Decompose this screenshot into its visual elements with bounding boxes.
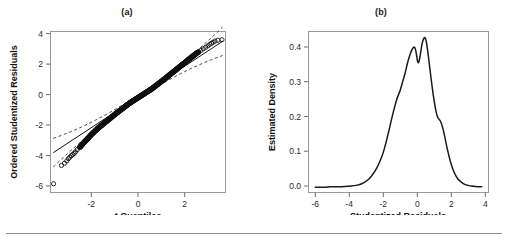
density-curve	[315, 38, 481, 188]
panel-b-ytick-1: 0.1	[289, 146, 301, 156]
panel-a-ytick-4: -4	[35, 151, 43, 161]
panel-a-xtick-0: -2	[88, 199, 96, 209]
panel-b-xtick-1: -4	[346, 199, 354, 209]
panel-a-xtick-2: 2	[182, 199, 187, 209]
qq-data-points	[51, 38, 224, 186]
panel-b-x-ticks	[315, 193, 485, 198]
qq-plot-svg: 4 2 0 -2 -4 -6 -2 0 2 t Quantiles Ordere…	[0, 0, 254, 215]
panel-a-ytick-3: -2	[35, 120, 43, 130]
bottom-divider	[6, 233, 502, 234]
panel-b-ytick-3: 0.3	[289, 77, 301, 87]
panel-b-plot-frame	[309, 32, 489, 193]
panel-a-ytick-1: 2	[38, 59, 43, 69]
panel-b-xtick-4: 2	[449, 199, 454, 209]
panel-b-ytick-2: 0.2	[289, 112, 301, 122]
qq-point	[216, 38, 220, 42]
panel-b-xlabel: Studentized Residuals	[350, 211, 446, 215]
panel-a: (a) 4 2 0 -2 -4 -6	[0, 0, 254, 215]
panel-b-ylabel: Estimated Density	[267, 73, 277, 151]
panel-b-xtick-5: 4	[483, 199, 488, 209]
panel-a-ytick-0: 4	[38, 29, 43, 39]
panel-a-ytick-2: 0	[38, 90, 43, 100]
panel-a-xtick-1: 0	[136, 199, 141, 209]
panel-b-xtick-0: -6	[312, 199, 320, 209]
panel-a-ylabel: Ordered Studentized Residuals	[9, 45, 19, 179]
figure-container: (a) 4 2 0 -2 -4 -6	[0, 0, 508, 241]
qq-point	[51, 182, 55, 186]
panel-a-xlabel: t Quantiles	[115, 211, 162, 215]
panel-b-y-ticks	[304, 47, 309, 186]
panel-b-ytick-4: 0.4	[289, 42, 301, 52]
panel-a-plot-frame	[51, 32, 226, 193]
panel-b: (b) 0.0 0.1 0.2 0.3 0.4 -	[254, 0, 508, 215]
panel-b-xtick-2: -2	[380, 199, 388, 209]
panel-a-x-ticks	[91, 193, 184, 198]
panel-b-ytick-0: 0.0	[289, 181, 301, 191]
panel-b-xtick-3: 0	[415, 199, 420, 209]
panel-a-ytick-5: -6	[35, 181, 43, 191]
density-plot-svg: 0.0 0.1 0.2 0.3 0.4 -6 -4 -2 0 2 4 Stude…	[254, 0, 508, 215]
panel-a-y-ticks	[46, 34, 51, 186]
